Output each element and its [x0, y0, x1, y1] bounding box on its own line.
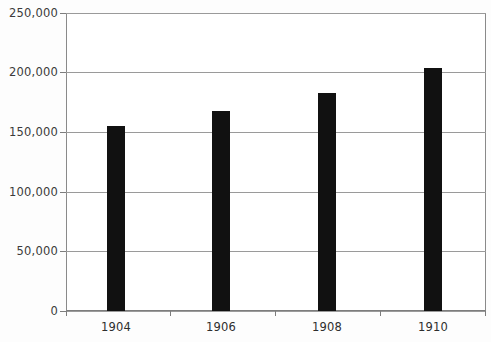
- xtick-label-1906: 1906: [186, 320, 256, 334]
- ytick-label-100000-wrap: 100,000: [0, 185, 58, 199]
- gridline-150000: [66, 132, 486, 133]
- ytick-label-0-wrap: 0: [0, 304, 58, 318]
- gridline-250000: [66, 13, 486, 14]
- ytick-mark-200000: [60, 72, 66, 73]
- plot-area: [66, 13, 486, 311]
- ytick-label-0: 0: [2, 304, 58, 318]
- ytick-label-200000: 200,000: [2, 65, 58, 79]
- bar-1906[interactable]: [212, 111, 230, 311]
- ytick-label-100000: 100,000: [2, 185, 58, 199]
- bar-1908[interactable]: [318, 93, 336, 311]
- gridline-200000: [66, 72, 486, 73]
- ytick-label-50000-wrap: 50,000: [0, 244, 58, 258]
- xtick-label-1910: 1910: [398, 320, 468, 334]
- xtick-label-1904: 1904: [81, 320, 151, 334]
- ytick-mark-100000: [60, 192, 66, 193]
- xtick-mark-start: [66, 311, 67, 316]
- xtick-mark-1: [170, 311, 171, 316]
- ytick-label-150000-wrap: 150,000: [0, 125, 58, 139]
- ytick-label-250000: 250,000: [2, 6, 58, 20]
- gridline-50000: [66, 251, 486, 252]
- bar-1904[interactable]: [107, 126, 125, 311]
- xtick-mark-3: [380, 311, 381, 316]
- ytick-mark-250000: [60, 13, 66, 14]
- xtick-label-1908: 1908: [292, 320, 362, 334]
- xtick-mark-2: [275, 311, 276, 316]
- xtick-mark-end: [485, 311, 486, 316]
- bar-chart: 250,000 200,000 150,000 100,000 50,000 0…: [0, 0, 491, 342]
- ytick-label-150000: 150,000: [2, 125, 58, 139]
- axis-baseline: [66, 311, 486, 312]
- ytick-label-50000: 50,000: [2, 244, 58, 258]
- bar-1910[interactable]: [424, 68, 442, 311]
- ytick-mark-150000: [60, 132, 66, 133]
- ytick-mark-50000: [60, 251, 66, 252]
- ytick-label-200000-wrap: 200,000: [0, 65, 58, 79]
- gridline-100000: [66, 192, 486, 193]
- ytick-label-250000-wrap: 250,000: [0, 6, 58, 20]
